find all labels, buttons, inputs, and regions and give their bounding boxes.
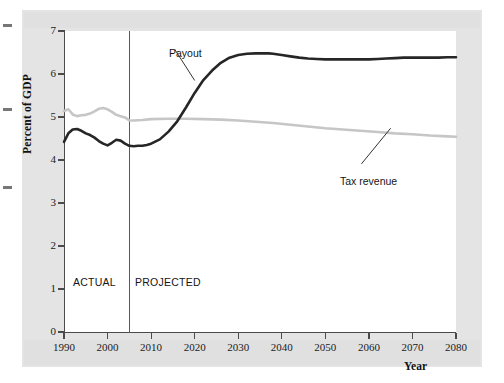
- figure-container: Percent of GDP Year 01234567 19902000201…: [0, 0, 504, 383]
- line-tax-revenue: [64, 108, 456, 137]
- leader-line-tax-revenue: [361, 128, 390, 164]
- series-curves: [0, 0, 504, 383]
- leader-line-payout: [175, 49, 195, 80]
